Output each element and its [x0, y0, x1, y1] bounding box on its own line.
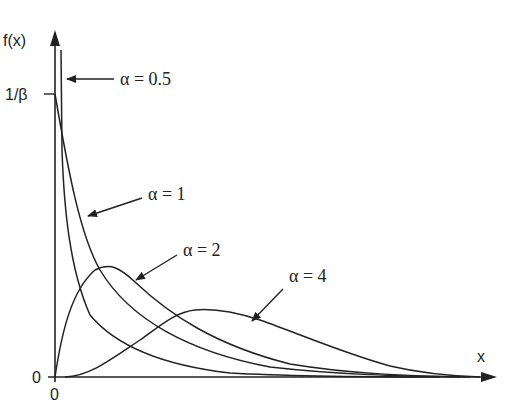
y-tick-label-zero: 0 — [32, 369, 41, 386]
x-tick-label-zero: 0 — [50, 386, 59, 403]
x-axis-label: x — [477, 348, 485, 365]
axes — [44, 30, 497, 382]
y-axis-arrow-icon — [50, 30, 60, 46]
y-axis-label: f(x) — [3, 32, 26, 49]
curve-alpha-0-5 — [61, 50, 440, 377]
label-alpha-4: α = 4 — [289, 266, 327, 286]
gamma-pdf-chart: f(x) 1/β 0 0 x α = 0.5 α = 1 α = 2 α = 4 — [0, 0, 509, 415]
curve-alpha-2 — [55, 266, 470, 377]
y-tick-label-top: 1/β — [5, 86, 28, 103]
x-axis-arrow-icon — [481, 372, 497, 382]
curves — [55, 50, 480, 377]
label-alpha-0-5: α = 0.5 — [120, 69, 171, 89]
annotations: α = 0.5 α = 1 α = 2 α = 4 — [67, 69, 327, 321]
arrow-alpha-1 — [88, 198, 142, 216]
arrow-alpha-4 — [252, 289, 283, 321]
label-alpha-2: α = 2 — [183, 240, 221, 260]
label-alpha-1: α = 1 — [148, 184, 186, 204]
curve-alpha-1 — [55, 94, 460, 377]
arrow-alpha-2 — [136, 255, 177, 280]
